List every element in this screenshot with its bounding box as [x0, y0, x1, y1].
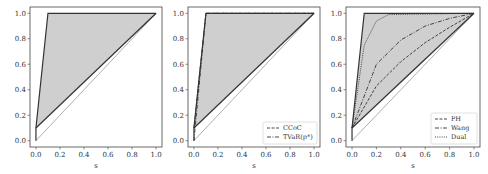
- y-tick-label: 0.6: [173, 61, 185, 69]
- x-tick-label: 0.6: [420, 151, 432, 159]
- figure: 0.00.20.40.60.81.00.00.20.40.60.81.0s0.0…: [0, 0, 488, 174]
- x-tick-label: 0.8: [126, 151, 137, 159]
- y-tick-label: 0.0: [331, 137, 342, 145]
- x-tick-label: 0.8: [444, 151, 455, 159]
- x-tick-label: 0.6: [260, 151, 272, 159]
- y-tick-label: 1.0: [173, 10, 184, 18]
- x-tick-label: 0.0: [346, 151, 357, 159]
- x-axis-label: s: [411, 162, 415, 170]
- y-tick-label: 0.4: [15, 86, 27, 94]
- legend-label: PH: [451, 115, 461, 123]
- x-axis-label: s: [94, 162, 98, 170]
- legend-label: Dual: [451, 133, 466, 141]
- x-tick-label: 0.4: [395, 151, 407, 159]
- y-tick-label: 0.0: [15, 137, 26, 145]
- y-tick-label: 0.4: [331, 86, 343, 94]
- y-tick-label: 0.4: [173, 86, 185, 94]
- y-tick-label: 0.8: [15, 35, 26, 43]
- y-tick-label: 1.0: [331, 10, 342, 18]
- x-tick-label: 0.2: [212, 151, 223, 159]
- x-tick-label: 0.8: [284, 151, 295, 159]
- x-tick-label: 1.0: [308, 151, 319, 159]
- x-tick-label: 0.4: [78, 151, 90, 159]
- x-tick-label: 1.0: [468, 151, 479, 159]
- x-tick-label: 0.0: [30, 151, 41, 159]
- legend-label: TVaR(p*): [283, 133, 313, 141]
- x-tick-label: 0.2: [371, 151, 382, 159]
- x-tick-label: 0.6: [102, 151, 114, 159]
- y-tick-label: 0.8: [331, 35, 342, 43]
- x-axis-label: s: [252, 162, 256, 170]
- legend-label: CCoC: [283, 124, 302, 132]
- chart-panel-2: 0.00.20.40.60.81.00.00.20.40.60.81.0sCCo…: [173, 7, 320, 170]
- chart-panel-1: 0.00.20.40.60.81.00.00.20.40.60.81.0s: [15, 7, 162, 170]
- y-tick-label: 0.6: [331, 61, 343, 69]
- y-tick-label: 0.8: [173, 35, 184, 43]
- y-tick-label: 1.0: [15, 10, 26, 18]
- x-tick-label: 0.0: [188, 151, 199, 159]
- y-tick-label: 0.2: [15, 112, 26, 120]
- y-tick-label: 0.2: [331, 112, 342, 120]
- y-tick-label: 0.2: [173, 112, 184, 120]
- x-tick-label: 0.4: [236, 151, 248, 159]
- x-tick-label: 0.2: [54, 151, 65, 159]
- x-tick-label: 1.0: [150, 151, 161, 159]
- y-tick-label: 0.6: [15, 61, 27, 69]
- y-tick-label: 0.0: [173, 137, 184, 145]
- legend-label: Wang: [451, 124, 469, 132]
- chart-panel-3: 0.00.20.40.60.81.00.00.20.40.60.81.0sPHW…: [331, 7, 480, 170]
